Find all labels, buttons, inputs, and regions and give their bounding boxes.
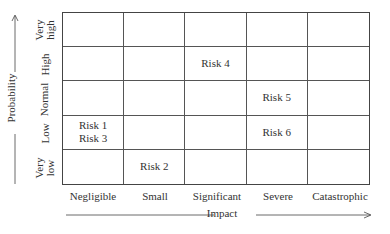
- matrix-cell: [185, 116, 246, 150]
- matrix-cell: [63, 13, 124, 47]
- matrix-cell: Risk 1Risk 3: [63, 116, 124, 150]
- matrix-cell: [308, 13, 369, 47]
- y-label-low: Low: [30, 116, 60, 150]
- matrix-cell: [185, 150, 246, 184]
- matrix-cell: Risk 4: [185, 47, 246, 81]
- risk-label: Risk 6: [262, 126, 290, 139]
- matrix-cell: [308, 47, 369, 81]
- matrix-cell: [63, 47, 124, 81]
- matrix-cell: Risk 5: [247, 81, 308, 115]
- risk-label: Risk 5: [262, 91, 290, 104]
- matrix-cell: [247, 13, 308, 47]
- y-label-normal: Normal: [30, 82, 60, 116]
- x-label-small: Small: [124, 190, 186, 202]
- matrix-cell: [185, 81, 246, 115]
- probability-axis-title: Probability: [0, 78, 22, 118]
- matrix-cell: [124, 13, 185, 47]
- risk-label: Risk 2: [140, 160, 168, 173]
- risk-label: Risk 4: [201, 57, 229, 70]
- risk-label: Risk 3: [79, 132, 107, 145]
- x-label-negligible: Negligible: [62, 190, 124, 202]
- y-label-high: High: [30, 47, 60, 82]
- matrix-cell: [308, 81, 369, 115]
- matrix-cell: [63, 81, 124, 115]
- matrix-cell: [63, 150, 124, 184]
- x-label-severe: Severe: [247, 190, 309, 202]
- y-label-very-high: Very high: [30, 12, 60, 47]
- matrix-cell: [185, 13, 246, 47]
- matrix-cell: [247, 47, 308, 81]
- x-label-significant: Significant: [186, 190, 248, 202]
- risk-matrix: Risk 4Risk 5Risk 1Risk 3Risk 6Risk 2: [62, 12, 370, 185]
- matrix-cell: Risk 6: [247, 116, 308, 150]
- matrix-cell: [124, 81, 185, 115]
- x-label-catastrophic: Catastrophic: [304, 190, 376, 202]
- matrix-cell: [308, 116, 369, 150]
- matrix-cell: [124, 116, 185, 150]
- matrix-cell: Risk 2: [124, 150, 185, 184]
- y-label-very-low: Very low: [30, 150, 60, 185]
- impact-axis-title: Impact: [196, 207, 248, 219]
- matrix-cell: [308, 150, 369, 184]
- matrix-cell: [247, 150, 308, 184]
- risk-label: Risk 1: [79, 119, 107, 132]
- matrix-cell: [124, 47, 185, 81]
